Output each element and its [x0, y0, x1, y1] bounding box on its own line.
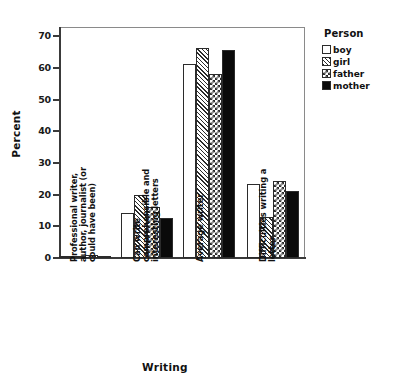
bar-father: [209, 74, 222, 258]
legend-item-father[interactable]: father: [322, 68, 396, 79]
y-axis-tick-labels: 010203040506070: [18, 0, 51, 384]
x-axis-category-label: Difficulties writing a letter: [259, 169, 277, 262]
y-axis-tick-label: 0: [21, 252, 51, 263]
x-axis-category-label: Can write comprehensible and interesting…: [133, 169, 161, 262]
y-axis-tick-label: 60: [21, 62, 51, 73]
x-axis-category-label: Average writer: [196, 194, 205, 262]
y-axis-tick-label: 70: [21, 30, 51, 41]
legend-item-label: mother: [333, 81, 370, 91]
chart-screenshot: 010203040506070 Percent Professional wri…: [0, 0, 399, 384]
y-axis-title: Percent: [10, 99, 22, 169]
y-axis-tick-label: 40: [21, 125, 51, 136]
y-axis-tick-label: 20: [21, 189, 51, 200]
legend-item-girl[interactable]: girl: [322, 56, 396, 67]
bar-mother: [98, 256, 111, 258]
legend: Person boygirlfathermother: [322, 28, 396, 92]
bar-group: [183, 27, 236, 258]
legend-item-mother[interactable]: mother: [322, 80, 396, 91]
legend-swatch-icon: [322, 57, 331, 66]
x-axis-category-label: Professional writer, author, journalist …: [70, 167, 98, 262]
legend-item-label: girl: [333, 57, 350, 67]
legend-item-label: boy: [333, 45, 352, 55]
bar-mother: [286, 191, 299, 258]
bar-boy: [183, 64, 196, 258]
legend-items: boygirlfathermother: [322, 44, 396, 91]
y-axis-tick-label: 30: [21, 157, 51, 168]
x-axis-title: Writing: [0, 361, 330, 373]
bar-mother: [160, 218, 173, 258]
bar-mother: [222, 50, 235, 258]
legend-item-boy[interactable]: boy: [322, 44, 396, 55]
legend-title: Person: [324, 28, 396, 39]
legend-item-label: father: [333, 69, 364, 79]
y-axis-tick-label: 10: [21, 220, 51, 231]
y-axis-tick-label: 50: [21, 94, 51, 105]
legend-swatch-icon: [322, 81, 331, 90]
legend-swatch-icon: [322, 69, 331, 78]
legend-swatch-icon: [322, 45, 331, 54]
